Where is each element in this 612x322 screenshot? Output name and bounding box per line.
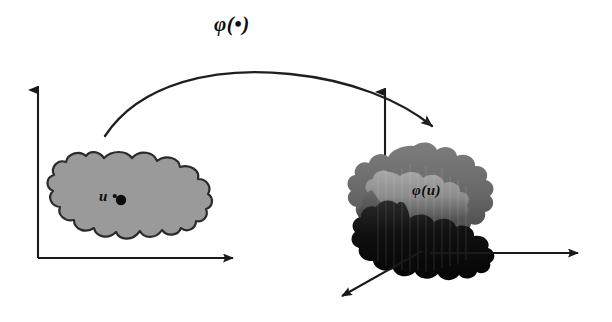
diagram-canvas <box>0 0 612 322</box>
feature-blob <box>348 143 495 281</box>
image-point-label: φ(u) <box>412 182 441 199</box>
input-blob-shape <box>47 152 211 239</box>
map-operator-label: φ(•) <box>214 12 250 37</box>
input-blob <box>47 152 211 239</box>
transformation-diagram: φ(•) u • φ(u) <box>0 0 612 322</box>
domain-point-label: u • <box>99 188 118 205</box>
mapping-curve-path <box>105 72 432 136</box>
mapping-curve <box>105 72 432 136</box>
